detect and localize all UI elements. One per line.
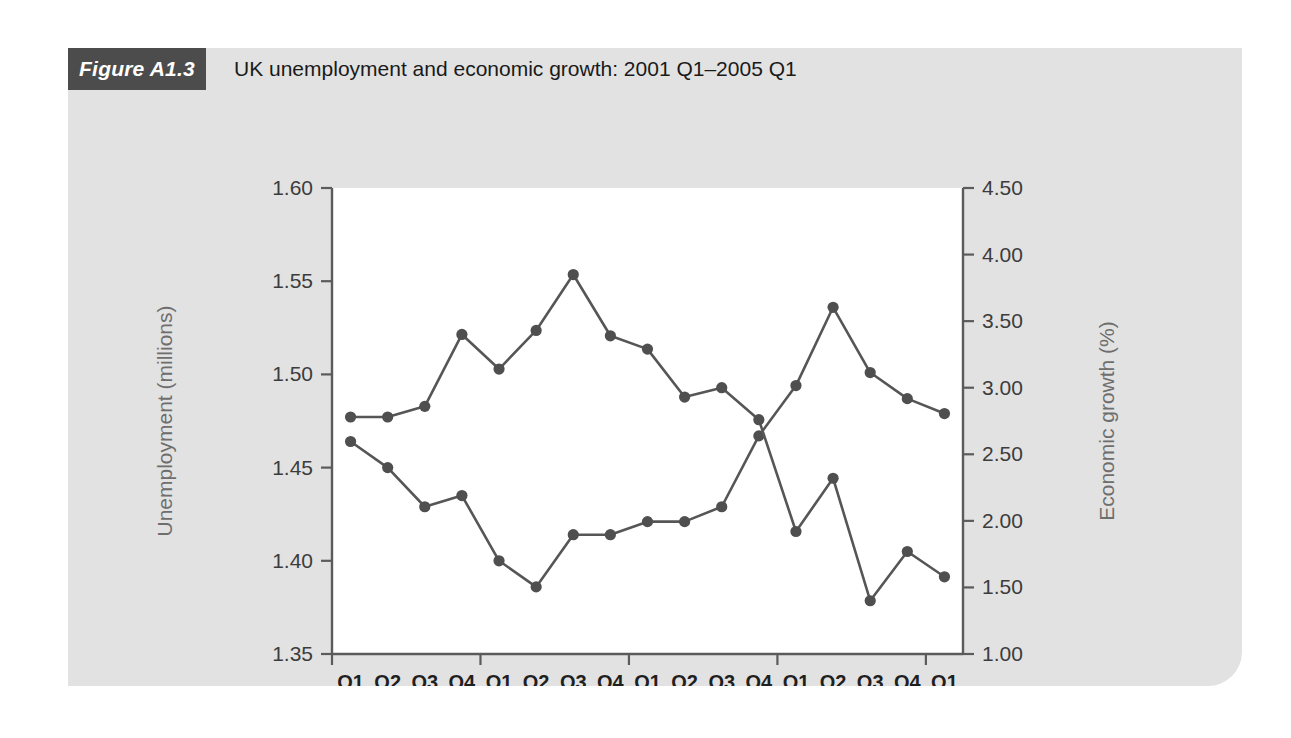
chart-svg: 1.351.401.451.501.551.60 1.001.502.002.5… bbox=[68, 92, 1242, 686]
x-axis-ticks bbox=[332, 654, 926, 665]
series-point bbox=[456, 490, 467, 501]
series-point bbox=[642, 516, 653, 527]
figure-title: UK unemployment and economic growth: 200… bbox=[234, 48, 797, 90]
series-point bbox=[716, 382, 727, 393]
left-tick-label: 1.35 bbox=[272, 642, 313, 665]
series-point bbox=[419, 501, 430, 512]
figure-header: Figure A1.3 UK unemployment and economic… bbox=[68, 48, 1242, 92]
series-point bbox=[345, 411, 356, 422]
left-tick-label: 1.50 bbox=[272, 362, 313, 385]
series-point bbox=[865, 595, 876, 606]
left-tick-label: 1.40 bbox=[272, 549, 313, 572]
quarter-label-group: Q1Q2Q3Q4Q1Q2Q3Q4Q1Q2Q3Q4Q1Q2Q3Q4Q1 bbox=[337, 671, 958, 686]
series-point bbox=[605, 529, 616, 540]
right-tick-label: 3.50 bbox=[982, 309, 1023, 332]
right-tick-label: 1.00 bbox=[982, 642, 1023, 665]
series-point bbox=[456, 329, 467, 340]
quarter-label: Q3 bbox=[560, 671, 587, 686]
series-point bbox=[493, 363, 504, 374]
quarter-label: Q1 bbox=[337, 671, 364, 686]
series-point bbox=[827, 473, 838, 484]
right-tick-label: 4.00 bbox=[982, 243, 1023, 266]
quarter-label: Q1 bbox=[931, 671, 958, 686]
quarter-label: Q1 bbox=[783, 671, 810, 686]
right-axis-title: Economic growth (%) bbox=[1095, 321, 1118, 521]
series-point bbox=[568, 529, 579, 540]
series-point bbox=[605, 330, 616, 341]
series-point bbox=[679, 516, 690, 527]
quarter-label: Q2 bbox=[820, 671, 847, 686]
quarter-label: Q3 bbox=[411, 671, 438, 686]
quarter-label: Q4 bbox=[449, 671, 477, 686]
left-tick-label: 1.55 bbox=[272, 269, 313, 292]
quarter-label: Q4 bbox=[894, 671, 922, 686]
right-tick-label: 1.50 bbox=[982, 575, 1023, 598]
series-point bbox=[679, 391, 690, 402]
series-point bbox=[939, 408, 950, 419]
quarter-label: Q1 bbox=[486, 671, 513, 686]
series-point bbox=[568, 269, 579, 280]
series-point bbox=[716, 501, 727, 512]
left-axis-ticks: 1.351.401.451.501.551.60 bbox=[272, 176, 332, 665]
right-tick-label: 3.00 bbox=[982, 376, 1023, 399]
series-point bbox=[753, 414, 764, 425]
left-tick-label: 1.45 bbox=[272, 456, 313, 479]
series-point bbox=[382, 462, 393, 473]
quarter-label: Q2 bbox=[374, 671, 401, 686]
figure-number-badge: Figure A1.3 bbox=[68, 48, 206, 90]
series-point bbox=[902, 393, 913, 404]
quarter-label: Q2 bbox=[671, 671, 698, 686]
series-point bbox=[827, 302, 838, 313]
right-tick-label: 4.50 bbox=[982, 176, 1023, 199]
series-point bbox=[790, 380, 801, 391]
quarter-label: Q2 bbox=[523, 671, 550, 686]
series-point bbox=[531, 581, 542, 592]
figure-panel: Figure A1.3 UK unemployment and economic… bbox=[68, 48, 1242, 686]
series-point bbox=[382, 411, 393, 422]
right-axis-ticks: 1.001.502.002.503.003.504.004.50 bbox=[963, 176, 1023, 665]
left-tick-label: 1.60 bbox=[272, 176, 313, 199]
quarter-label: Q4 bbox=[597, 671, 625, 686]
series-point bbox=[865, 367, 876, 378]
series-point bbox=[939, 571, 950, 582]
series-point bbox=[790, 526, 801, 537]
series-point bbox=[493, 555, 504, 566]
right-tick-label: 2.00 bbox=[982, 509, 1023, 532]
quarter-label: Q3 bbox=[857, 671, 884, 686]
quarter-label: Q4 bbox=[746, 671, 774, 686]
plot-background bbox=[332, 188, 963, 654]
series-point bbox=[419, 401, 430, 412]
chart-area: 1.351.401.451.501.551.60 1.001.502.002.5… bbox=[68, 92, 1242, 686]
series-point bbox=[531, 325, 542, 336]
right-tick-label: 2.50 bbox=[982, 442, 1023, 465]
series-point bbox=[345, 436, 356, 447]
series-point bbox=[642, 344, 653, 355]
quarter-label: Q3 bbox=[708, 671, 735, 686]
quarter-label: Q1 bbox=[634, 671, 661, 686]
series-point bbox=[902, 546, 913, 557]
left-axis-title: Unemployment (millions) bbox=[153, 305, 176, 536]
